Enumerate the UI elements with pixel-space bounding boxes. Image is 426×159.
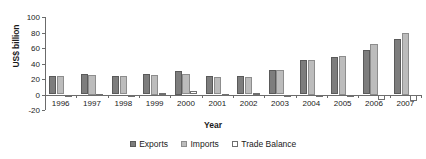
x-axis-tick xyxy=(170,95,171,98)
chart-legend: ExportsImportsTrade Balance xyxy=(0,139,426,149)
x-axis-tick-label: 1998 xyxy=(114,99,132,108)
x-axis-tick-label: 1996 xyxy=(52,99,70,108)
bar-group xyxy=(108,17,139,110)
y-axis-tick xyxy=(42,110,45,111)
bar-exports xyxy=(206,76,213,95)
bar-balance xyxy=(65,95,72,97)
bar-imports xyxy=(214,77,221,95)
x-axis-tick xyxy=(296,95,297,98)
x-axis-tick xyxy=(390,95,391,98)
x-axis-tick-label: 2003 xyxy=(271,99,289,108)
bar-exports xyxy=(237,76,244,95)
legend-item-balance[interactable]: Trade Balance xyxy=(232,139,296,149)
bar-imports xyxy=(308,60,315,95)
x-axis-tick xyxy=(358,95,359,98)
bar-exports xyxy=(81,74,88,94)
legend-label: Exports xyxy=(139,139,168,149)
bar-group xyxy=(76,17,107,110)
bar-imports xyxy=(276,70,283,94)
bar-group xyxy=(202,17,233,110)
bar-balance xyxy=(316,95,323,97)
bar-group xyxy=(45,17,76,110)
bar-imports xyxy=(245,77,252,94)
bar-exports xyxy=(49,76,56,95)
bar-imports xyxy=(370,44,377,94)
x-axis-tick-label: 2007 xyxy=(396,99,414,108)
bar-imports xyxy=(339,56,346,95)
bar-exports xyxy=(143,74,150,95)
bar-exports xyxy=(175,71,182,94)
bar-imports xyxy=(182,74,189,94)
legend-item-exports[interactable]: Exports xyxy=(130,139,168,149)
legend-swatch-imports-icon xyxy=(181,141,187,147)
bar-group xyxy=(358,17,389,110)
legend-swatch-exports-icon xyxy=(130,141,136,147)
bar-group xyxy=(233,17,264,110)
bar-group xyxy=(327,17,358,110)
y-axis-tick-label: 80 xyxy=(31,28,40,37)
bar-imports xyxy=(120,76,127,95)
bar-balance xyxy=(284,95,291,97)
y-axis-tick-label: 60 xyxy=(31,44,40,53)
bar-exports xyxy=(112,76,119,95)
bar-group xyxy=(390,17,421,110)
x-axis-tick-label: 2000 xyxy=(177,99,195,108)
x-axis-tick xyxy=(45,95,46,98)
x-axis-tick xyxy=(421,95,422,98)
y-axis-title: US$ billion xyxy=(11,6,21,86)
x-axis-tick xyxy=(264,95,265,98)
legend-item-imports[interactable]: Imports xyxy=(181,139,219,149)
x-axis-tick xyxy=(233,95,234,98)
x-axis-tick xyxy=(139,95,140,98)
bar-balance xyxy=(96,94,103,96)
x-axis-title: Year xyxy=(0,120,426,130)
y-axis-tick-label: 40 xyxy=(31,59,40,68)
bar-exports xyxy=(331,57,338,94)
x-axis-tick xyxy=(202,95,203,98)
bar-group xyxy=(264,17,295,110)
legend-label: Trade Balance xyxy=(241,139,296,149)
bar-balance xyxy=(347,95,354,97)
bar-exports xyxy=(269,70,276,94)
y-axis-tick-label: 20 xyxy=(31,75,40,84)
bar-balance xyxy=(190,91,197,94)
y-axis-tick-label: 0 xyxy=(36,90,40,99)
x-axis-tick xyxy=(327,95,328,98)
plot-area: -200204060801001996199719981999200020012… xyxy=(45,17,421,110)
x-axis-tick-label: 2005 xyxy=(334,99,352,108)
x-axis-tick-label: 1997 xyxy=(83,99,101,108)
bar-exports xyxy=(363,50,370,95)
bar-balance xyxy=(159,93,166,95)
bar-exports xyxy=(300,60,307,94)
bar-balance xyxy=(222,94,229,96)
bar-imports xyxy=(57,76,64,95)
bar-balance xyxy=(253,93,260,95)
bar-group xyxy=(296,17,327,110)
x-axis-tick xyxy=(76,95,77,98)
bar-balance xyxy=(128,95,135,97)
x-axis-tick-label: 2004 xyxy=(302,99,320,108)
legend-label: Imports xyxy=(191,139,219,149)
x-axis-tick-label: 1999 xyxy=(146,99,164,108)
bar-group xyxy=(139,17,170,110)
x-axis-tick xyxy=(108,95,109,98)
bar-group xyxy=(170,17,201,110)
x-axis-tick-label: 2001 xyxy=(208,99,226,108)
y-axis-tick-label: 100 xyxy=(27,13,40,22)
y-axis-tick-label: -20 xyxy=(28,106,40,115)
trade-bar-chart: US$ billion -200204060801001996199719981… xyxy=(0,0,426,159)
legend-swatch-balance-icon xyxy=(232,141,238,147)
x-axis-tick-label: 2006 xyxy=(365,99,383,108)
bar-imports xyxy=(402,33,409,95)
bar-imports xyxy=(88,75,95,94)
bar-imports xyxy=(151,75,158,94)
bar-exports xyxy=(394,39,401,94)
x-axis-tick-label: 2002 xyxy=(240,99,258,108)
